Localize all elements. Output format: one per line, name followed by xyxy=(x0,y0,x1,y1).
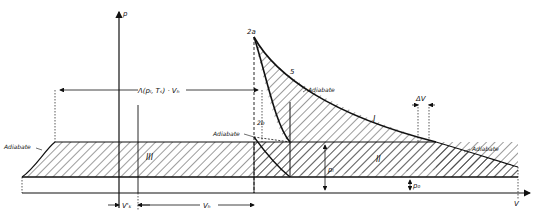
adiabat-upper-label: Adiabate xyxy=(307,86,335,93)
delta-v-label: ΔV xyxy=(415,95,427,103)
p-0-label: p₀ xyxy=(412,182,420,190)
point-2a-label: 2a xyxy=(247,28,256,36)
v-axis-label: V xyxy=(514,200,520,208)
region-II-label: II xyxy=(376,155,381,164)
adiabat-mid-label: Adiabate xyxy=(212,130,240,137)
p-l-label: pₗ xyxy=(327,166,334,174)
adiabat-right-label: Adiabate xyxy=(471,145,499,152)
region-III-label: III xyxy=(146,153,154,162)
p-axis-label: p xyxy=(122,10,128,18)
point-5-label: 5 xyxy=(290,68,295,76)
pv-diagram: ΔV Λ(pₗ, Tₛ) · Vₕ pₗ p₀ V'ₖ Vₕ p V 2a 5 … xyxy=(0,0,552,224)
v-h-label: Vₕ xyxy=(203,202,211,210)
adiabat-left-label: Adiabate xyxy=(3,143,31,150)
lambda-vh-label: Λ(pₗ, Tₛ) · Vₕ xyxy=(137,87,180,95)
point-2b-label: 2b xyxy=(257,119,265,126)
v-k-label: V'ₖ xyxy=(122,202,132,210)
